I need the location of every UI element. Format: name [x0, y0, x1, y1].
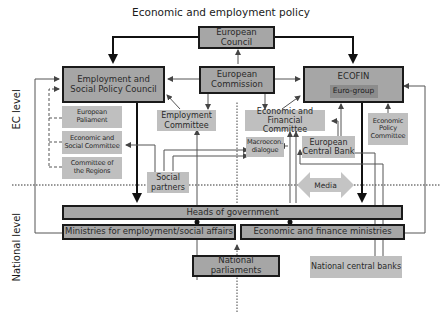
european-council: European Council: [198, 26, 275, 49]
heads-of-government: Heads of government: [62, 205, 403, 220]
european-commission: European Commission: [199, 66, 275, 94]
national-central-banks: National central banks: [310, 256, 402, 278]
national-parliaments: National parliaments: [192, 255, 280, 277]
economic-social-committee: Economic and Social Committee: [62, 131, 122, 154]
social-partners: Social partners: [147, 172, 189, 193]
media-arrow: Media: [310, 178, 341, 192]
ec-level-label: EC level: [11, 74, 22, 130]
economic-finance-ministries: Economic and finance ministries: [240, 224, 405, 240]
national-level-label: National level: [11, 210, 22, 282]
macroecon-dialogue: Macroecon. dialogue: [246, 137, 284, 157]
ecofin: ECOFIN Euro-group: [303, 66, 404, 103]
euro-group: Euro-group: [330, 85, 378, 98]
committee-of-the-regions: Committee of the Regions: [62, 157, 122, 179]
employment-social-policy-council: Employment and Social Policy Council: [62, 66, 165, 103]
ecofin-label: ECOFIN: [338, 72, 370, 82]
employment-committee: Employment Committee: [157, 110, 216, 131]
european-parliament: European Paliament: [62, 106, 122, 128]
european-central-bank: European Central Bank: [302, 136, 355, 158]
ministries-employment-social-affairs: Ministries for employment/social affairs: [62, 224, 236, 240]
economic-policy-committee: Economic Policy Committee: [368, 113, 408, 145]
economic-financial-committee: Economic and Financial Committee: [245, 110, 325, 131]
